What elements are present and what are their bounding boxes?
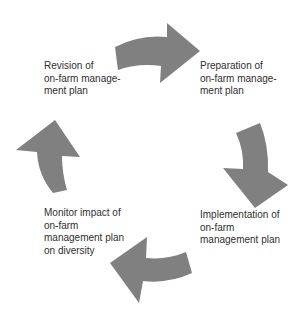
stage-text-line: on-farm — [44, 220, 124, 233]
stage-text-line: ment plan — [44, 85, 121, 98]
stage-text-line: Monitor impact of — [44, 207, 124, 220]
cycle-diagram: Preparation of on-farm manage- ment plan… — [0, 0, 298, 318]
stage-text-line: Implementation of — [200, 209, 280, 222]
stage-preparation-label: Preparation of on-farm manage- ment plan — [200, 60, 277, 98]
cycle-arrows — [0, 0, 298, 318]
arrow-right-icon — [115, 23, 200, 83]
stage-text-line: Preparation of — [200, 60, 277, 73]
stage-text-line: on-farm — [200, 222, 280, 235]
stage-text-line: management plan — [200, 234, 280, 247]
stage-text-line: on-farm manage- — [44, 73, 121, 86]
arrow-down-icon — [223, 123, 288, 208]
stage-text-line: Revision of — [44, 60, 121, 73]
stage-text-line: on diversity — [44, 245, 124, 258]
stage-implementation-label: Implementation of on-farm management pla… — [200, 209, 280, 247]
arrow-up-icon — [16, 120, 80, 193]
stage-text-line: ment plan — [200, 85, 277, 98]
stage-revision-label: Revision of on-farm manage- ment plan — [44, 60, 121, 98]
stage-text-line: management plan — [44, 232, 124, 245]
stage-monitor-label: Monitor impact of on-farm management pla… — [44, 207, 124, 257]
stage-text-line: on-farm manage- — [200, 73, 277, 86]
